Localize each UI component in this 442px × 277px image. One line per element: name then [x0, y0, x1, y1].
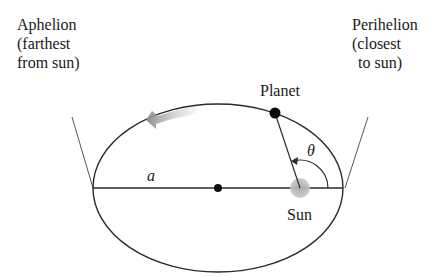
theta-label: θ: [307, 141, 315, 160]
perihelion-label-line-2: (closest: [352, 34, 418, 53]
aphelion-label-line-3: from sun): [17, 53, 80, 72]
ellipse-center-dot: [214, 184, 222, 192]
planet-label: Planet: [260, 81, 300, 100]
aphelion-label-line-2: (farthest: [17, 34, 80, 53]
semi-major-axis-label: a: [147, 166, 155, 185]
radius-line: [275, 113, 300, 188]
perihelion-label: Perihelion (closest to sun): [352, 15, 418, 72]
aphelion-label: Aphelion (farthest from sun): [17, 15, 80, 72]
aphelion-leader-line: [72, 117, 93, 188]
perihelion-label-line-1: Perihelion: [352, 15, 418, 34]
sun-label: Sun: [287, 205, 312, 224]
planet-icon: [270, 108, 281, 119]
aphelion-label-line-1: Aphelion: [17, 15, 80, 34]
perihelion-leader-line: [345, 117, 368, 188]
perihelion-label-line-3: to sun): [352, 53, 418, 72]
